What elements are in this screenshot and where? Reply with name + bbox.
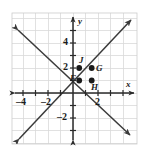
point-g [89, 65, 95, 71]
x-tick-label-pos2: 2 [95, 97, 100, 107]
point-label-j: J [79, 56, 84, 65]
coordinate-graph-figure: y x –4 –2 2 4 2 –2 J G F H [0, 0, 147, 157]
y-tick-label-neg2: –2 [57, 112, 67, 122]
point-label-g: G [96, 64, 103, 73]
x-axis-name-label: x [126, 80, 131, 89]
point-j [76, 65, 82, 71]
y-axis-name-label: y [78, 17, 82, 26]
y-tick-label-pos4: 4 [63, 37, 68, 47]
x-tick-label-neg4: –4 [16, 97, 26, 107]
x-tick-label-neg2: –2 [41, 97, 51, 107]
point-label-h: H [91, 83, 98, 92]
point-f [76, 78, 82, 84]
y-tick-label-pos2: 2 [63, 62, 68, 72]
point-label-f: F [70, 74, 76, 83]
